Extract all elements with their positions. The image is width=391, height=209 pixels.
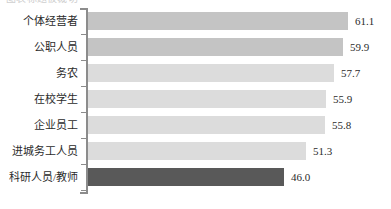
axis-tick [81,112,87,113]
category-label: 企业员工 [0,112,78,138]
bar-chart: 图表标题被裁切 个体经营者 61.1 公职人员 59.9 务农 57.7 在校学… [0,0,391,209]
axis-tick [81,138,87,139]
cropped-caption-remnant: 图表标题被裁切 [6,0,186,6]
category-label: 公职人员 [0,34,78,60]
bar-row: 个体经营者 61.1 [0,8,391,34]
axis-cap-bottom [80,192,88,194]
category-label: 务农 [0,60,78,86]
axis-tick [81,164,87,165]
bar-segment [88,12,348,30]
bar-row: 企业员工 55.8 [0,112,391,138]
bar-segment [88,90,326,108]
bar-row: 公职人员 59.9 [0,34,391,60]
plot-area: 个体经营者 61.1 公职人员 59.9 务农 57.7 在校学生 55.9 企… [0,8,391,200]
axis-tick [81,34,87,35]
bar-value-label: 55.9 [333,86,352,112]
bar-row: 进城务工人员 51.3 [0,138,391,164]
bar-row: 科研人员/教师 46.0 [0,164,391,190]
bar-segment [88,168,284,186]
cropped-caption-text: 图表标题被裁切 [6,0,186,4]
bar-segment [88,142,306,160]
bar-segment [88,116,325,134]
bar-value-label: 61.1 [355,8,374,34]
category-label: 在校学生 [0,86,78,112]
bar-value-label: 55.8 [332,112,351,138]
bar-value-label: 46.0 [291,164,310,190]
axis-tick [81,60,87,61]
category-label: 个体经营者 [0,8,78,34]
bar-value-label: 59.9 [350,34,369,60]
category-label: 进城务工人员 [0,138,78,164]
bar-segment [88,38,343,56]
category-label: 科研人员/教师 [0,164,78,190]
bar-segment [88,64,334,82]
bar-value-label: 57.7 [341,60,360,86]
bar-row: 在校学生 55.9 [0,86,391,112]
axis-tick [81,86,87,87]
axis-tick [81,8,87,9]
axis-tick [81,190,87,191]
bar-row: 务农 57.7 [0,60,391,86]
bar-value-label: 51.3 [313,138,332,164]
